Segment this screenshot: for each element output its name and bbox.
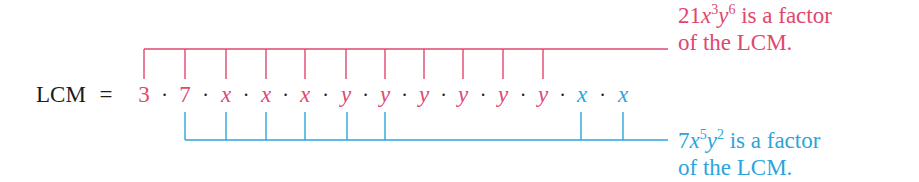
multiply-dot: · (362, 80, 369, 110)
factor-y-5: y (341, 80, 351, 110)
factor-y-9: y (498, 80, 508, 110)
factor-x-11: x (577, 80, 587, 110)
factor-7-1: 7 (179, 80, 191, 110)
note-bottom-rest: is a factor (724, 128, 820, 153)
lcm-label: LCM = (36, 80, 113, 110)
equals-sign: = (100, 82, 113, 107)
multiply-dot: · (440, 80, 447, 110)
note-bottom-line2: of the LCM. (678, 154, 820, 181)
note-bottom-var1: x (690, 128, 700, 153)
multiply-dot: · (243, 80, 250, 110)
multiply-dot: · (282, 80, 289, 110)
note-top-line2: of the LCM. (678, 29, 832, 56)
top-bracket-21x3y6 (144, 49, 668, 79)
factor-3-0: 3 (138, 80, 150, 110)
factor-y-8: y (458, 80, 468, 110)
factor-x-4: x (300, 80, 310, 110)
multiply-dot: · (161, 80, 168, 110)
note-bottom-exp2: 2 (717, 127, 724, 142)
multiply-dot: · (322, 80, 329, 110)
multiply-dot: · (599, 80, 606, 110)
factor-x-12: x (618, 80, 628, 110)
bottom-bracket-7x5y2 (185, 112, 668, 140)
multiply-dot: · (202, 80, 209, 110)
note-top-line1: 21x3y6 is a factor (678, 2, 832, 29)
note-top-var2: y (718, 3, 728, 28)
factor-x-2: x (221, 80, 231, 110)
lcm-text: LCM (36, 82, 86, 107)
note-bottom-line1: 7x5y2 is a factor (678, 127, 820, 154)
factor-y-10: y (538, 80, 548, 110)
note-top: 21x3y6 is a factor of the LCM. (678, 2, 832, 56)
factor-y-7: y (419, 80, 429, 110)
multiply-dot: · (401, 80, 408, 110)
factor-y-6: y (380, 80, 390, 110)
note-bottom-coef: 7 (678, 128, 690, 153)
note-top-var1: x (701, 3, 711, 28)
lcm-factor-diagram: LCM = 3·7·x·x·x·y·y·y·y·y·y·x·x 21x3y6 i… (0, 0, 919, 182)
note-bottom: 7x5y2 is a factor of the LCM. (678, 127, 820, 181)
factor-x-3: x (261, 80, 271, 110)
multiply-dot: · (559, 80, 566, 110)
note-bottom-exp1: 5 (700, 127, 707, 142)
note-top-coef: 21 (678, 3, 701, 28)
note-bottom-var2: y (707, 128, 717, 153)
multiply-dot: · (480, 80, 487, 110)
note-top-rest: is a factor (735, 3, 831, 28)
multiply-dot: · (520, 80, 527, 110)
